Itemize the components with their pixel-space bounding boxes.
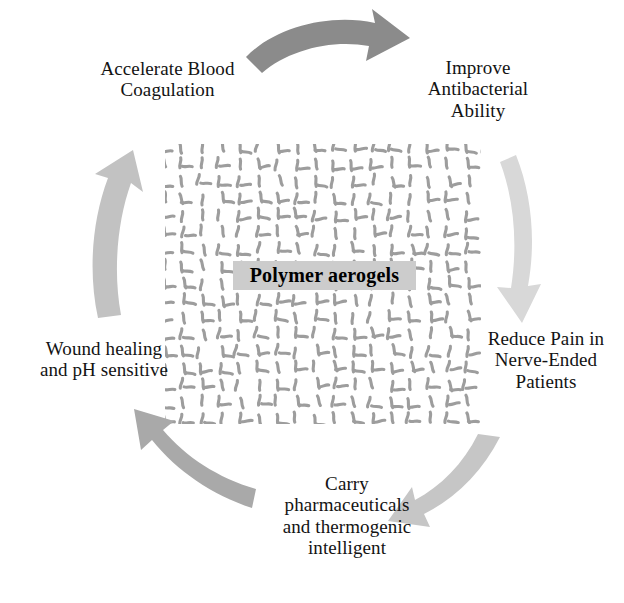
node-label-wound-healing-ph-sensitive: Wound healing and pH sensitive [14,338,194,381]
node-label-reduce-pain-in-nerve-ended-patients: Reduce Pain in Nerve-Ended Patients [470,328,622,392]
cycle-diagram: Accelerate Blood Coagulation Improve Ant… [0,0,624,603]
node-label-accelerate-blood-coagulation: Accelerate Blood Coagulation [60,58,275,101]
polymer-network-texture [158,140,499,443]
node-label-improve-antibacterial-ability: Improve Antibacterial Ability [398,57,558,121]
center-label-polymer-aerogels: Polymer aerogels [233,261,416,290]
arrow-left [93,150,143,318]
arrow-right [497,155,541,323]
arrow-bottom-left [134,409,256,508]
node-label-carry-pharmaceuticals: Carry pharmaceuticals and thermogenic in… [252,473,442,558]
